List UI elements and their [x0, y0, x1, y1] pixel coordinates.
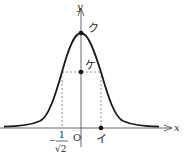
x-axis-point	[99, 126, 104, 131]
tick-numerator: 1	[59, 130, 65, 140]
x-axis-label: x	[174, 122, 180, 133]
x-point-label: イ	[96, 133, 107, 146]
graph-canvas: y x O ク ケ イ − 1 √2	[0, 0, 186, 161]
y-axis-label: y	[76, 1, 83, 12]
bell-curve	[4, 33, 159, 127]
mid-label: ケ	[85, 59, 96, 72]
peak-label: ク	[88, 22, 99, 35]
peak-point	[79, 31, 84, 36]
tick-denominator: √2	[55, 144, 66, 154]
mid-point	[79, 70, 84, 75]
origin-label: O	[73, 132, 81, 143]
